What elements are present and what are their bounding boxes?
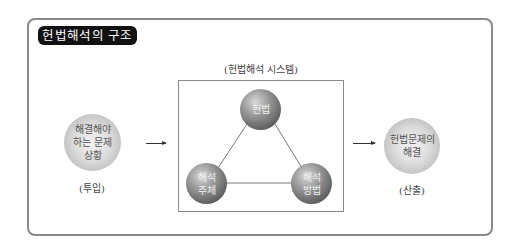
node-interpretation-method: 해석 방법 (291, 163, 332, 204)
output-line-1: 헌법문제의 (390, 133, 435, 146)
node-interpretation-subject: 해석 주체 (186, 163, 227, 204)
node-constitution: 헌법 (240, 89, 281, 130)
output-caption: (산출) (382, 182, 442, 197)
output-arrow (353, 143, 375, 144)
output-line-2: 해결 (390, 146, 435, 159)
output-node: 헌법문제의 해결 (384, 118, 440, 174)
